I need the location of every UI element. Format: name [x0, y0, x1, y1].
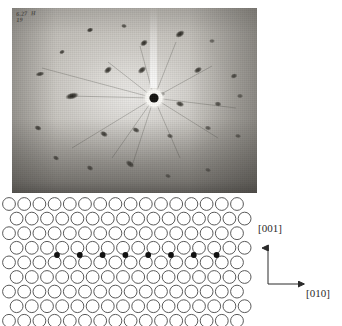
- lattice-atom-circle: [162, 271, 175, 284]
- lattice-atom-circle: [117, 271, 130, 284]
- lattice-atom-circle: [86, 271, 99, 284]
- lattice-atom-circle: [177, 241, 190, 254]
- lattice-atom-circles: [3, 198, 251, 326]
- lattice-atom-circle: [33, 198, 46, 211]
- interstitial-atom-dot: [214, 252, 220, 258]
- lattice-atom-circle: [94, 314, 107, 326]
- lattice-atom-circle: [41, 241, 54, 254]
- lattice-atom-circle: [139, 285, 152, 298]
- lattice-atom-circle: [185, 314, 198, 326]
- lattice-atom-circle: [193, 300, 206, 313]
- lattice-atom-circle: [10, 241, 23, 254]
- lattice-atom-circle: [3, 314, 16, 326]
- lattice-atom-circle: [79, 285, 92, 298]
- handwritten-annotation: 6.27 H 19: [16, 10, 36, 24]
- lattice-atom-circle: [215, 285, 228, 298]
- lattice-atom-circle: [101, 300, 114, 313]
- lattice-atom-circle: [18, 256, 31, 269]
- lattice-atom-circle: [223, 271, 236, 284]
- lattice-atom-circle: [63, 256, 76, 269]
- lattice-atom-circle: [33, 285, 46, 298]
- lattice-atom-circle: [200, 198, 213, 211]
- interstitial-atom-dot: [123, 252, 129, 258]
- lattice-atom-circle: [208, 241, 221, 254]
- lattice-atom-circle: [155, 285, 168, 298]
- lattice-atom-circle: [208, 212, 221, 225]
- lattice-atom-circle: [170, 314, 183, 326]
- figure-container: 6.27 H 19 [001] [010]: [0, 0, 342, 326]
- interstitial-atom-dot: [145, 252, 151, 258]
- lattice-atom-circle: [208, 300, 221, 313]
- lattice-atom-circle: [231, 256, 244, 269]
- lattice-atom-circle: [63, 314, 76, 326]
- lattice-atom-circle: [18, 314, 31, 326]
- lattice-atom-circle: [215, 256, 228, 269]
- lattice-atom-circle: [147, 271, 160, 284]
- lattice-atom-circle: [139, 256, 152, 269]
- lattice-atom-circle: [155, 227, 168, 240]
- lattice-atom-circle: [124, 314, 137, 326]
- lattice-atom-circle: [48, 227, 61, 240]
- lattice-atom-circle: [71, 212, 84, 225]
- lattice-atom-circle: [162, 212, 175, 225]
- lattice-atom-circle: [117, 241, 130, 254]
- lattice-atom-circle: [147, 300, 160, 313]
- lattice-atom-circle: [79, 198, 92, 211]
- lattice-svg: [0, 196, 342, 326]
- lattice-atom-circle: [215, 198, 228, 211]
- lattice-atom-circle: [162, 241, 175, 254]
- lattice-atom-circle: [94, 227, 107, 240]
- lattice-atom-circle: [170, 285, 183, 298]
- lattice-atom-circle: [48, 285, 61, 298]
- lattice-atom-circle: [41, 271, 54, 284]
- lattice-atom-circle: [124, 256, 137, 269]
- lattice-atom-circle: [101, 271, 114, 284]
- lattice-atom-circle: [170, 256, 183, 269]
- lattice-atom-circle: [155, 198, 168, 211]
- lattice-atom-circle: [3, 256, 16, 269]
- lattice-atom-circle: [223, 241, 236, 254]
- lattice-atom-circle: [18, 198, 31, 211]
- lattice-atom-circle: [3, 227, 16, 240]
- lattice-atom-circle: [185, 256, 198, 269]
- lattice-atom-circle: [48, 256, 61, 269]
- lattice-atom-circle: [177, 271, 190, 284]
- lattice-atom-circle: [33, 256, 46, 269]
- lattice-atom-circle: [25, 212, 38, 225]
- interstitial-atom-dot: [168, 252, 174, 258]
- lattice-atom-circle: [200, 227, 213, 240]
- laue-diffraction-photograph: 6.27 H 19: [12, 8, 257, 193]
- lattice-atom-circle: [117, 212, 130, 225]
- lattice-atom-circle: [208, 271, 221, 284]
- lattice-atom-circle: [177, 212, 190, 225]
- lattice-atom-circle: [132, 300, 145, 313]
- lattice-atom-circle: [215, 314, 228, 326]
- lattice-atom-circle: [10, 271, 23, 284]
- lattice-atom-circle: [25, 241, 38, 254]
- interstitial-atom-dot: [100, 252, 106, 258]
- lattice-atom-circle: [79, 256, 92, 269]
- lattice-atom-circle: [200, 285, 213, 298]
- lattice-atom-circle: [147, 212, 160, 225]
- lattice-atom-circle: [155, 256, 168, 269]
- lattice-atom-circle: [231, 227, 244, 240]
- lattice-atom-circle: [63, 227, 76, 240]
- lattice-atom-circle: [139, 314, 152, 326]
- lattice-atom-circle: [155, 314, 168, 326]
- axis-label-001: [001]: [258, 222, 282, 234]
- lattice-atom-circle: [71, 300, 84, 313]
- lattice-atom-circle: [94, 256, 107, 269]
- lattice-atom-circle: [94, 198, 107, 211]
- crystal-lattice-diagram: [001] [010]: [0, 196, 342, 326]
- lattice-atom-circle: [56, 271, 69, 284]
- lattice-atom-circle: [109, 285, 122, 298]
- lattice-atom-circle: [170, 198, 183, 211]
- lattice-atom-circle: [177, 300, 190, 313]
- interstitial-atom-dot: [77, 252, 83, 258]
- lattice-atom-circle: [71, 241, 84, 254]
- lattice-atom-circle: [79, 227, 92, 240]
- lattice-atom-circle: [63, 198, 76, 211]
- interstitial-atom-row: [54, 252, 219, 258]
- lattice-atom-circle: [109, 314, 122, 326]
- lattice-atom-circle: [101, 212, 114, 225]
